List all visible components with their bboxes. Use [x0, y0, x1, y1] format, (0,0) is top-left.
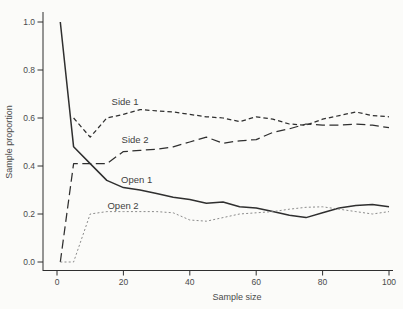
series-label-side-2: Side 2 [122, 134, 149, 145]
y-tick-label: 0.0 [23, 257, 35, 267]
y-tick-label: 0.2 [23, 209, 35, 219]
x-tick-label: 60 [251, 277, 261, 287]
series-line-side-2 [60, 124, 389, 262]
x-tick-label: 0 [55, 277, 60, 287]
chart-figure: 0.00.20.40.60.81.0020406080100 Side 1Sid… [0, 0, 403, 309]
series-label-open-2: Open 2 [107, 200, 138, 211]
x-tick-label: 80 [318, 277, 328, 287]
x-tick-label: 40 [185, 277, 195, 287]
y-tick-label: 0.8 [23, 65, 35, 75]
data-series [60, 22, 389, 262]
y-tick-label: 0.4 [23, 161, 35, 171]
series-line-open-2 [60, 207, 389, 262]
y-tick-label: 0.6 [23, 113, 35, 123]
series-labels: Side 1Side 2Open 1Open 2 [107, 96, 152, 211]
series-label-open-1: Open 1 [121, 174, 152, 185]
series-label-side-1: Side 1 [112, 96, 139, 107]
series-line-open-1 [60, 22, 389, 218]
x-axis-title: Sample size [212, 292, 261, 302]
x-tick-label: 100 [382, 277, 396, 287]
y-tick-label: 1.0 [23, 17, 35, 27]
chart-canvas: 0.00.20.40.60.81.0020406080100 Side 1Sid… [0, 0, 403, 309]
y-axis-title: Sample proportion [4, 105, 14, 179]
x-tick-label: 20 [119, 277, 129, 287]
series-line-side-1 [74, 110, 389, 138]
